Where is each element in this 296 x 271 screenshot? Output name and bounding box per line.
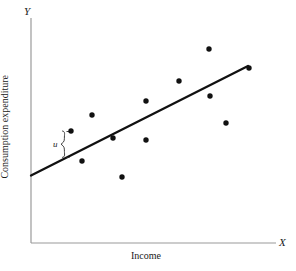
x-axis-letter: X [279,237,286,248]
y-axis-title: Consumption expenditure [0,75,14,85]
data-point [119,174,124,179]
y-axis-letter: Y [24,6,30,17]
plot-canvas [0,0,296,271]
data-point [143,137,148,142]
data-point [89,112,94,117]
data-point [223,120,228,125]
regression-line [31,66,248,176]
x-axis-title: Income [131,251,161,261]
data-point [143,98,148,103]
data-point [246,65,251,70]
data-point [207,93,212,98]
data-point [79,158,84,163]
data-point [110,135,115,140]
regression-scatter-figure: Y X Income Consumption expenditure u [0,0,296,271]
y-axis-title-text: Consumption expenditure [0,75,10,179]
data-point [68,128,73,133]
data-point-group [68,46,251,179]
data-point [206,46,211,51]
residual-brace [61,131,65,157]
residual-label: u [53,140,58,149]
data-point [176,78,181,83]
